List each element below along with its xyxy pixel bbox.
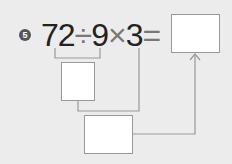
second-step-answer-box[interactable] [84, 115, 133, 154]
intermediate-answer-box[interactable] [61, 62, 95, 101]
final-answer-box[interactable] [171, 14, 220, 53]
